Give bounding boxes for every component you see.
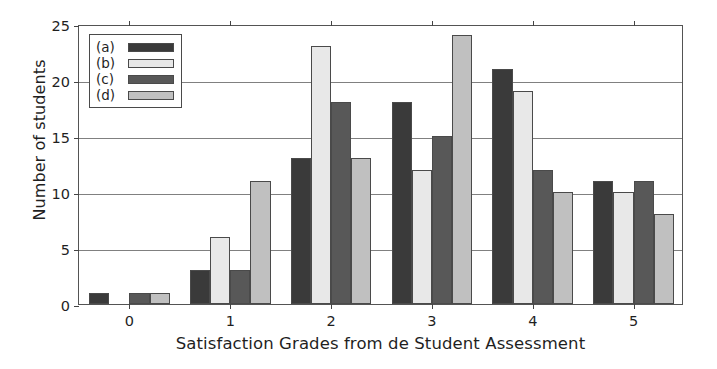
y-tick-label-15: 15: [52, 130, 70, 146]
bar-a-cat-5: [593, 181, 613, 304]
bar-d-cat-2: [351, 158, 371, 304]
y-tick-mark-0: [74, 306, 79, 307]
bar-b-cat-3: [412, 170, 432, 304]
x-tick-label-2: 2: [326, 313, 335, 329]
y-tick-label-0: 0: [61, 298, 70, 314]
legend-swatch-d: [128, 91, 174, 100]
y-tick-mark-5: [74, 250, 79, 251]
bar-d-cat-4: [553, 192, 573, 304]
bar-a-cat-2: [291, 158, 311, 304]
bar-c-cat-4: [533, 170, 553, 304]
x-tick-mark-top-0: [129, 21, 130, 26]
legend-label-d: (d): [96, 87, 124, 103]
x-tick-mark-top-3: [432, 21, 433, 26]
legend-item-d: (d): [96, 87, 174, 103]
bar-b-cat-4: [513, 91, 533, 304]
bar-b-cat-2: [311, 46, 331, 304]
bar-d-cat-0: [150, 293, 170, 304]
legend-label-b: (b): [96, 55, 124, 71]
legend-item-c: (c): [96, 71, 174, 87]
x-tick-mark-4: [533, 304, 534, 309]
legend-swatch-b: [128, 59, 174, 68]
bar-d-cat-3: [452, 35, 472, 304]
y-tick-label-10: 10: [52, 186, 70, 202]
legend-swatch-c: [128, 75, 174, 84]
x-tick-mark-5: [634, 304, 635, 309]
bar-b-cat-5: [613, 192, 633, 304]
x-tick-label-5: 5: [629, 313, 638, 329]
x-tick-label-0: 0: [125, 313, 134, 329]
y-tick-mark-25: [74, 26, 79, 27]
gridline-y-15: [79, 138, 682, 139]
bar-d-cat-5: [654, 214, 674, 304]
x-tick-mark-top-4: [533, 21, 534, 26]
bar-b-cat-1: [210, 237, 230, 304]
bar-d-cat-1: [250, 181, 270, 304]
x-tick-label-3: 3: [427, 313, 436, 329]
bar-c-cat-0: [129, 293, 149, 304]
x-tick-mark-top-2: [331, 21, 332, 26]
y-tick-label-20: 20: [52, 74, 70, 90]
plot-area: 0510152025 012345 (a)(b)(c)(d): [78, 25, 683, 305]
bar-a-cat-4: [492, 69, 512, 304]
bar-c-cat-1: [230, 270, 250, 304]
bar-c-cat-5: [634, 181, 654, 304]
x-tick-mark-3: [432, 304, 433, 309]
bar-a-cat-0: [89, 293, 109, 304]
legend: (a)(b)(c)(d): [89, 34, 182, 108]
bar-a-cat-3: [392, 102, 412, 304]
x-tick-mark-top-1: [230, 21, 231, 26]
gridline-y-10: [79, 194, 682, 195]
legend-item-b: (b): [96, 55, 174, 71]
legend-label-a: (a): [96, 39, 124, 55]
legend-swatch-a: [128, 43, 174, 52]
x-axis-title: Satisfaction Grades from de Student Asse…: [78, 334, 683, 353]
x-tick-mark-top-5: [634, 21, 635, 26]
bar-c-cat-3: [432, 136, 452, 304]
y-tick-label-5: 5: [61, 242, 70, 258]
x-tick-mark-2: [331, 304, 332, 309]
y-tick-mark-15: [74, 138, 79, 139]
gridline-y-5: [79, 250, 682, 251]
bar-c-cat-2: [331, 102, 351, 304]
bar-a-cat-1: [190, 270, 210, 304]
legend-item-a: (a): [96, 39, 174, 55]
x-tick-label-1: 1: [226, 313, 235, 329]
y-tick-mark-20: [74, 82, 79, 83]
y-tick-label-25: 25: [52, 18, 70, 34]
x-tick-label-4: 4: [528, 313, 537, 329]
x-tick-mark-0: [129, 304, 130, 309]
y-axis-title: Number of students: [26, 0, 54, 300]
x-tick-mark-1: [230, 304, 231, 309]
y-tick-mark-10: [74, 194, 79, 195]
bar-chart-figure: Number of students 0510152025 012345 (a)…: [0, 0, 717, 369]
legend-label-c: (c): [96, 71, 124, 87]
